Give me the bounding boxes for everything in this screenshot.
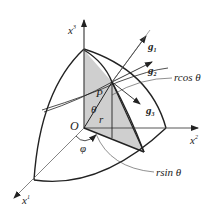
sphere-outer-arc-left <box>34 49 84 180</box>
x3-label: x3 <box>67 24 76 36</box>
g2-label: g2 <box>147 64 157 77</box>
g1-label: g1 <box>147 40 157 53</box>
spherical-coordinates-diagram: x3 x2 x1 O P θ r φ g1 g2 g3 rcos θ rsin … <box>0 0 218 213</box>
x1-label: x1 <box>21 194 30 206</box>
origin-label: O <box>70 119 79 133</box>
shaded-meridian-plane <box>84 50 144 152</box>
phi-label: φ <box>80 142 86 154</box>
x2-label: x2 <box>189 134 198 146</box>
g3-label: g3 <box>145 104 155 117</box>
sphere-equator-arc <box>34 128 166 181</box>
x1-axis <box>14 128 84 198</box>
rsin-label: rsin θ <box>156 166 182 178</box>
point-p-label: P <box>95 87 103 99</box>
radius-label: r <box>99 113 104 125</box>
rcos-label: rcos θ <box>174 71 201 83</box>
phi-arc <box>76 135 96 141</box>
theta-label: θ <box>91 103 97 115</box>
